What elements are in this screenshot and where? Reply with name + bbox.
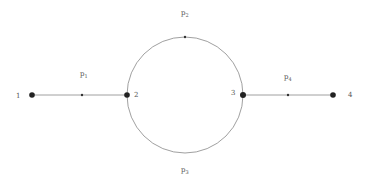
loop-circle <box>127 37 243 153</box>
node-label-2: 2 <box>134 91 138 99</box>
arrow-marker-p2 <box>184 36 186 38</box>
feynman-diagram: 1 2 3 4 p1 p2 p3 p4 <box>0 0 365 179</box>
node-2 <box>124 92 130 98</box>
node-3 <box>240 92 246 98</box>
edge-label-p4: p4 <box>284 73 292 82</box>
node-label-3: 3 <box>231 89 235 97</box>
node-label-4: 4 <box>348 91 353 99</box>
arrow-marker-p4 <box>287 94 289 96</box>
edge-label-p1: p1 <box>80 70 88 79</box>
edge-label-p3: p3 <box>181 166 189 175</box>
arrow-marker-p1 <box>81 94 83 96</box>
node-4 <box>330 92 336 98</box>
node-1 <box>29 92 35 98</box>
edge-label-p2: p2 <box>181 9 189 18</box>
node-label-1: 1 <box>16 92 20 100</box>
